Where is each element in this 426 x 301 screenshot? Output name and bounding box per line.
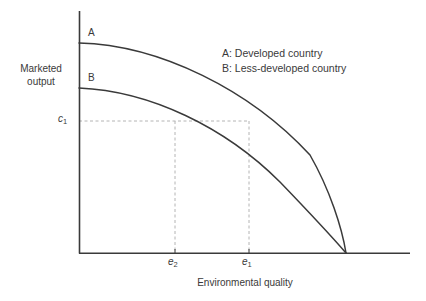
x-tick-label-e2-subscript: 2 <box>174 260 178 269</box>
y-tick-label-c1: c1 <box>58 113 67 128</box>
chart-plot-area <box>0 0 426 301</box>
x-tick-label-e1: e1 <box>242 256 252 271</box>
legend-item-a: A: Developed country <box>222 46 346 61</box>
legend-item-b: B: Less-developed country <box>222 61 346 76</box>
x-tick-label-e2: e2 <box>168 256 178 271</box>
y-axis-title: Marketed output <box>8 62 74 88</box>
x-axis-title: Environmental quality <box>140 277 350 289</box>
curve-a-marker-label: A <box>88 27 95 39</box>
y-tick-label-c1-subscript: 1 <box>63 117 67 126</box>
chart-figure: Marketed output Environmental quality A … <box>0 0 426 301</box>
curve-b-marker-label: B <box>88 72 95 84</box>
curve-b-less-developed-country <box>79 88 346 253</box>
x-tick-label-e1-subscript: 1 <box>248 260 252 269</box>
chart-legend: A: Developed country B: Less-developed c… <box>222 46 346 76</box>
